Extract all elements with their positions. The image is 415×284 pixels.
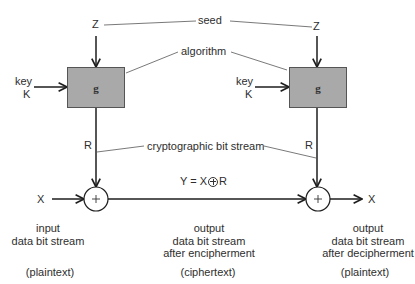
xor-operator-icon	[208, 177, 218, 187]
leader-lines	[97, 21, 316, 158]
key-label-left: key	[15, 75, 32, 88]
plaintext-input-symbol: X	[37, 193, 44, 206]
input-type: (plaintext)	[26, 266, 74, 279]
cipher-equation: Y = X R	[180, 175, 227, 188]
decipher-output-type: (plaintext)	[341, 266, 389, 279]
decipher-output-caption: output data bit stream after deciphermen…	[322, 222, 414, 260]
seed-leader-right	[230, 21, 312, 27]
input-caption: input data bit stream	[12, 222, 85, 247]
generator-box-decipher: g	[289, 67, 347, 108]
algorithm-leader-right	[231, 52, 287, 70]
seed-leader-left	[104, 21, 196, 25]
xor-encipher	[84, 187, 108, 211]
algorithm-leader-left	[126, 52, 178, 73]
seed-label: seed	[198, 14, 222, 27]
key-symbol-left: K	[23, 88, 30, 101]
equation-left: Y = X	[180, 175, 207, 188]
stream-leader-left	[97, 146, 144, 152]
plaintext-output-symbol: X	[368, 193, 375, 206]
key-symbol-right: K	[245, 88, 252, 101]
ciphertext-caption: output data bit stream after enciphermen…	[163, 222, 255, 260]
equation-right: R	[219, 175, 227, 188]
stream-label-right: R	[305, 139, 313, 152]
seed-input-left: Z	[92, 18, 99, 31]
stream-label-left: R	[84, 139, 92, 152]
key-label-right: key	[236, 75, 253, 88]
seed-input-right: Z	[313, 20, 320, 33]
generator-label: g	[93, 82, 99, 94]
generator-label: g	[315, 82, 321, 94]
algorithm-label: algorithm	[181, 45, 226, 58]
cryptographic-bit-stream-label: cryptographic bit stream	[147, 140, 264, 153]
ciphertext-type: (ciphertext)	[180, 266, 235, 279]
xor-decipher	[306, 187, 330, 211]
generator-box-encipher: g	[67, 67, 125, 108]
